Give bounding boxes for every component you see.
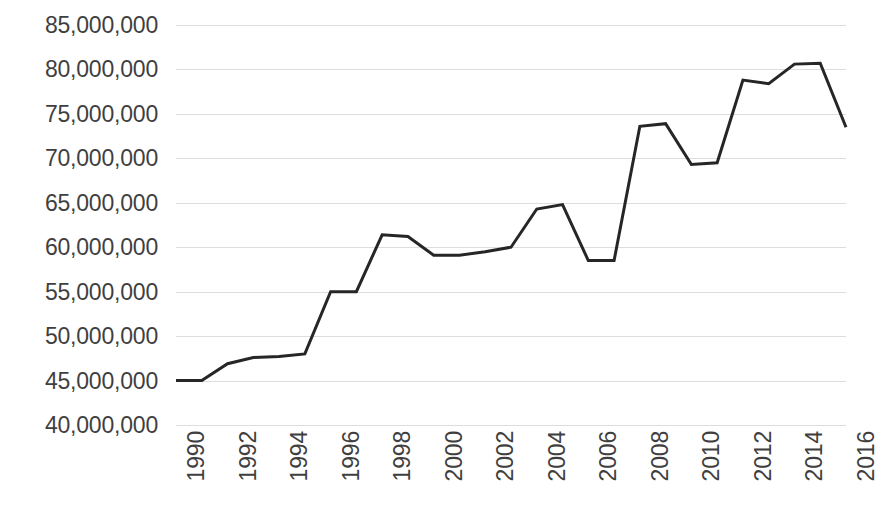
x-tick-label: 2004 xyxy=(546,431,569,481)
plot-area xyxy=(176,25,846,425)
x-axis: 1990199219941996199820002002200420062008… xyxy=(176,425,846,512)
y-tick-label: 60,000,000 xyxy=(0,236,158,259)
x-tick-label: 1990 xyxy=(185,431,208,481)
x-tick-label: 2010 xyxy=(700,431,723,481)
x-tick-label: 2012 xyxy=(752,431,775,481)
y-tick-label: 65,000,000 xyxy=(0,192,158,215)
y-tick-label: 70,000,000 xyxy=(0,147,158,170)
series-polyline xyxy=(176,63,846,380)
x-tick-label: 2002 xyxy=(494,431,517,481)
y-tick-label: 55,000,000 xyxy=(0,281,158,304)
y-tick-label: 75,000,000 xyxy=(0,103,158,126)
x-tick-label: 2016 xyxy=(855,431,878,481)
y-tick-label: 45,000,000 xyxy=(0,370,158,393)
y-tick-label: 50,000,000 xyxy=(0,325,158,348)
y-tick-label: 80,000,000 xyxy=(0,58,158,81)
x-tick-label: 1992 xyxy=(237,431,260,481)
x-tick-label: 2014 xyxy=(803,431,826,481)
x-tick-label: 2000 xyxy=(443,431,466,481)
x-tick-label: 2008 xyxy=(649,431,672,481)
x-tick-label: 1998 xyxy=(391,431,414,481)
y-tick-label: 40,000,000 xyxy=(0,414,158,437)
y-tick-label: 85,000,000 xyxy=(0,14,158,37)
x-tick-label: 1994 xyxy=(288,431,311,481)
x-tick-label: 2006 xyxy=(597,431,620,481)
series-line xyxy=(176,25,846,425)
x-tick-label: 1996 xyxy=(340,431,363,481)
y-axis: 85,000,00080,000,00075,000,00070,000,000… xyxy=(0,0,172,512)
